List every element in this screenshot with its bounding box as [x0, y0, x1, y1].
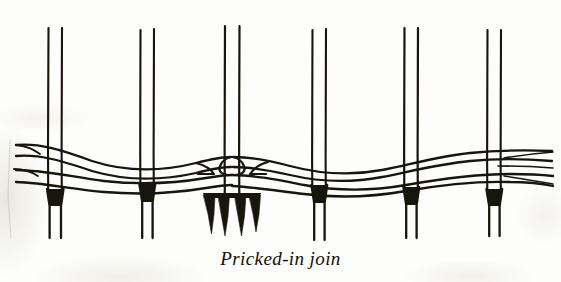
figure-caption: Pricked-in join [0, 248, 561, 270]
scan-edge-artifact [8, 140, 11, 238]
pricked-in-tails [203, 193, 261, 236]
warp-pair-2 [139, 29, 155, 238]
warp-pair-3-center [225, 26, 240, 196]
pricked-in-join-diagram [0, 0, 561, 282]
warp-pair-6 [486, 30, 502, 236]
figure-page: Pricked-in join [0, 0, 561, 282]
warp-pair-5 [403, 28, 419, 238]
warp-pair-4 [311, 29, 327, 240]
weft-band-4 [232, 174, 553, 196]
warp-pair-1 [47, 28, 64, 238]
